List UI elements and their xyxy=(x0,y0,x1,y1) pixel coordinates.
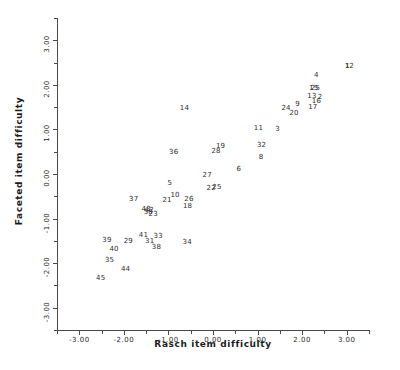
data-point-label: 6 xyxy=(237,165,242,172)
x-tick-minor xyxy=(369,330,370,334)
x-tick-minor xyxy=(146,330,147,334)
data-point-label: 40 xyxy=(109,245,118,252)
x-tick-minor xyxy=(102,330,103,334)
data-point-label: 29 xyxy=(124,237,133,244)
data-point-label: 12 xyxy=(345,63,354,70)
data-point-label: 9 xyxy=(295,101,300,108)
y-tick xyxy=(53,85,58,86)
data-point-label: 20 xyxy=(289,109,298,116)
x-tick-minor xyxy=(235,330,236,334)
data-point-label: 33 xyxy=(154,232,163,239)
data-point-label: 27 xyxy=(203,172,212,179)
y-tick-minor xyxy=(54,241,58,242)
y-axis-title: Faceted item difficulty xyxy=(14,36,24,286)
data-point-label: 25 xyxy=(311,84,320,91)
y-tick-minor xyxy=(54,285,58,286)
data-point-label: 38 xyxy=(152,244,161,251)
data-point-label: 21 xyxy=(162,197,171,204)
y-tick-label: -3.00 xyxy=(43,294,51,330)
plot-area: -3.00-2.00-1.000.001.002.003.00 3.002.00… xyxy=(57,18,369,330)
x-tick xyxy=(302,330,303,335)
data-point-label: 35 xyxy=(105,257,114,264)
data-point-label: 44 xyxy=(121,266,130,273)
y-tick-minor xyxy=(54,63,58,64)
y-tick-label: 0.00 xyxy=(43,160,51,196)
y-tick-label: -1.00 xyxy=(43,205,51,241)
x-tick xyxy=(79,330,80,335)
y-tick-minor xyxy=(54,107,58,108)
x-axis-title: Rasch item difficulty xyxy=(57,339,369,349)
y-tick-label: 2.00 xyxy=(43,71,51,107)
y-tick xyxy=(53,263,58,264)
data-point-label: 8 xyxy=(259,154,264,161)
data-point-label: 39 xyxy=(102,236,111,243)
data-point-label: 23 xyxy=(149,211,158,218)
y-tick xyxy=(53,174,58,175)
data-point-label: 18 xyxy=(183,202,192,209)
y-tick xyxy=(53,308,58,309)
y-tick-minor xyxy=(54,330,58,331)
data-point-label: 11 xyxy=(254,124,263,131)
scatter-chart: -3.00-2.00-1.000.001.002.003.00 3.002.00… xyxy=(0,0,400,370)
y-tick-label: 1.00 xyxy=(43,115,51,151)
y-tick xyxy=(53,129,58,130)
y-tick-minor xyxy=(54,196,58,197)
data-point-label: 36 xyxy=(169,148,178,155)
x-tick-minor xyxy=(324,330,325,334)
y-tick xyxy=(53,219,58,220)
x-tick xyxy=(347,330,348,335)
data-point-label: 3 xyxy=(275,125,280,132)
y-tick-minor xyxy=(54,152,58,153)
x-tick xyxy=(124,330,125,335)
x-tick xyxy=(168,330,169,335)
y-tick-label: -2.00 xyxy=(43,249,51,285)
data-point-label: 25 xyxy=(212,183,221,190)
data-point-label: 37 xyxy=(129,196,138,203)
x-tick xyxy=(258,330,259,335)
data-point-label: 10 xyxy=(170,191,179,198)
y-tick-label: 3.00 xyxy=(43,26,51,62)
x-tick-minor xyxy=(280,330,281,334)
data-point-label: 34 xyxy=(182,238,191,245)
data-point-label: 17 xyxy=(308,104,317,111)
data-point-label: 14 xyxy=(180,105,189,112)
data-point-label: 32 xyxy=(257,141,266,148)
data-point-label: 45 xyxy=(96,275,105,282)
y-tick-minor xyxy=(54,18,58,19)
data-point-label: 4 xyxy=(314,72,319,79)
x-tick xyxy=(213,330,214,335)
x-tick-minor xyxy=(191,330,192,334)
data-point-label: 5 xyxy=(167,179,172,186)
data-point-label: 28 xyxy=(211,147,220,154)
y-tick xyxy=(53,40,58,41)
